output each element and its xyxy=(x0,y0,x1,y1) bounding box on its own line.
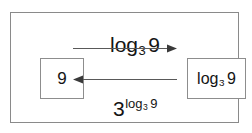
edge-label-backward-exponent: log39 xyxy=(125,96,157,111)
arrow-backward xyxy=(72,75,177,84)
arrow-backward-glyph xyxy=(72,75,177,84)
arrow-forward-glyph xyxy=(73,44,177,53)
diagram-canvas: 9 log39 log39 3log39 xyxy=(0,0,252,133)
edge-label-backward-math: 3log39 xyxy=(113,97,158,120)
arrow-forward xyxy=(73,44,177,53)
diagram-frame: 9 log39 log39 3log39 xyxy=(10,12,239,123)
node-output-label: log39 xyxy=(197,71,236,87)
node-output-label-subscript: 3 xyxy=(219,77,225,88)
edge-label-backward: 3log39 xyxy=(113,97,158,121)
node-box-output: log39 xyxy=(187,58,246,99)
node-input-label: 9 xyxy=(57,70,66,87)
edge-label-backward-exponent-subscript: 3 xyxy=(143,102,148,112)
